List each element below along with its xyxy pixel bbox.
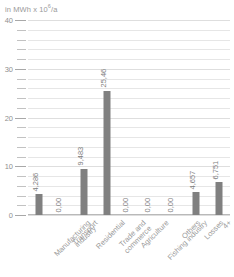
y-tick-mark bbox=[17, 176, 26, 177]
bar-slot: 25,46 bbox=[95, 20, 117, 215]
x-axis-label-slot: Transport bbox=[50, 217, 72, 277]
y-tick-mark bbox=[17, 137, 26, 138]
y-tick-mark bbox=[17, 127, 26, 128]
bar-series: 4,2860,009,48325,460,000,000,004,6576,75… bbox=[28, 20, 230, 215]
x-axis-label-slot: 4+ bbox=[208, 217, 230, 277]
x-axis-label-slot: Losses bbox=[185, 217, 207, 277]
chart-page: in MWh x 106/a 010203040 4,2860,009,4832… bbox=[0, 0, 234, 277]
bar-value-label: 4,286 bbox=[32, 172, 40, 191]
bar-value-label: 0,00 bbox=[166, 197, 174, 212]
unit-label-text: in MWh x 10 bbox=[5, 5, 48, 14]
bar-value-label: 0,00 bbox=[121, 197, 129, 212]
bar-value-label: 6,751 bbox=[211, 160, 219, 179]
y-axis-tick-label: 10 bbox=[5, 162, 13, 171]
bar-slot: 0,00 bbox=[140, 20, 162, 215]
y-tick-mark bbox=[17, 59, 26, 60]
y-tick-mark bbox=[15, 69, 26, 70]
y-tick-mark bbox=[17, 98, 26, 99]
bar-slot: 9,483 bbox=[73, 20, 95, 215]
axis-unit-label: in MWh x 106/a bbox=[5, 3, 57, 14]
y-tick-mark bbox=[17, 49, 26, 50]
bar-slot: 0,00 bbox=[50, 20, 72, 215]
bar[interactable] bbox=[193, 192, 200, 215]
bar-slot: 4,286 bbox=[28, 20, 50, 215]
y-tick-mark bbox=[17, 30, 26, 31]
x-axis-labels: ManufacturingindustryTransportResidentia… bbox=[28, 217, 230, 277]
bar[interactable] bbox=[36, 194, 43, 215]
x-axis-label-slot: Agriculture bbox=[118, 217, 140, 277]
bar-value-label: 0,00 bbox=[144, 197, 152, 212]
plot-area: 010203040 4,2860,009,48325,460,000,000,0… bbox=[28, 20, 230, 215]
bar[interactable] bbox=[215, 182, 222, 215]
y-axis-tick-label: 30 bbox=[5, 64, 13, 73]
x-axis-label-slot: Residential bbox=[73, 217, 95, 277]
unit-label-suffix: /a bbox=[51, 5, 57, 14]
y-tick-mark bbox=[17, 157, 26, 158]
y-axis-tick-label: 40 bbox=[5, 16, 13, 25]
gridline-major bbox=[28, 215, 230, 216]
bar-value-label: 25,46 bbox=[99, 69, 107, 88]
y-tick-mark bbox=[17, 147, 26, 148]
y-tick-mark bbox=[17, 40, 26, 41]
bar-value-label: 9,483 bbox=[77, 147, 85, 166]
x-axis-label-slot: Trade andcommerce bbox=[95, 217, 117, 277]
y-tick-mark bbox=[17, 186, 26, 187]
x-axis-label: 4+ bbox=[221, 219, 233, 231]
y-tick-mark bbox=[15, 166, 26, 167]
y-tick-mark bbox=[15, 20, 26, 21]
bar-slot: 0,00 bbox=[163, 20, 185, 215]
y-tick-mark bbox=[17, 79, 26, 80]
bar-slot: 4,657 bbox=[185, 20, 207, 215]
y-tick-mark bbox=[17, 196, 26, 197]
y-tick-mark bbox=[15, 215, 26, 216]
bar[interactable] bbox=[103, 91, 110, 215]
y-tick-mark bbox=[15, 118, 26, 119]
bar-value-label: 4,657 bbox=[189, 171, 197, 190]
x-axis-label-slot: Manufacturingindustry bbox=[28, 217, 50, 277]
y-tick-mark bbox=[17, 205, 26, 206]
y-axis-tick-label: 20 bbox=[5, 113, 13, 122]
y-axis-tick-label: 0 bbox=[9, 211, 13, 220]
x-axis-label-slot: Others bbox=[163, 217, 185, 277]
y-tick-mark bbox=[17, 108, 26, 109]
x-axis-label-slot: Fishing industry bbox=[140, 217, 162, 277]
x-axis-label-line1: 4+ bbox=[221, 218, 233, 230]
bar[interactable] bbox=[81, 169, 88, 215]
bar-slot: 6,751 bbox=[208, 20, 230, 215]
bar-value-label: 0,00 bbox=[54, 197, 62, 212]
bar-slot: 0,00 bbox=[118, 20, 140, 215]
y-tick-mark bbox=[17, 88, 26, 89]
